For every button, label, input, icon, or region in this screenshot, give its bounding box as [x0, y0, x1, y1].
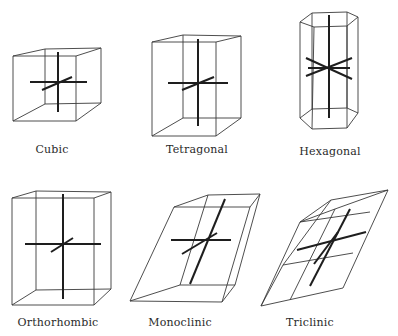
orthorhombic-hidden-edge-bottom	[12, 290, 36, 305]
monoclinic-hidden-edge-bottom	[130, 285, 180, 301]
monoclinic-crystal	[130, 194, 260, 302]
label-orthorhombic: Orthorhombic	[18, 316, 99, 329]
label-tetragonal: Tetragonal	[166, 143, 228, 156]
tetragonal-top-face	[152, 35, 241, 42]
orthorhombic-hidden-edges	[36, 191, 111, 290]
triclinic-top-face	[300, 190, 388, 222]
monoclinic-front-face	[130, 207, 250, 302]
cubic-crystal	[13, 48, 101, 121]
cubic-hidden-edges	[45, 49, 101, 104]
crystal-systems-diagram	[0, 0, 398, 336]
orthorhombic-crystal	[12, 191, 111, 305]
label-monoclinic: Monoclinic	[148, 316, 212, 329]
cubic-hidden-edge-bottom	[13, 104, 45, 121]
orthorhombic-right-face	[94, 192, 111, 305]
label-triclinic: Triclinic	[286, 316, 334, 329]
label-cubic: Cubic	[35, 143, 68, 156]
monoclinic-axis-a	[182, 233, 217, 254]
cubic-right-face	[76, 48, 101, 121]
monoclinic-top-face	[174, 194, 260, 207]
tetragonal-hidden-edges	[183, 35, 241, 118]
triclinic-hidden-edges	[261, 200, 331, 306]
monoclinic-right-face	[222, 194, 260, 302]
triclinic-hidden-top	[300, 212, 370, 222]
tetragonal-right-face	[216, 36, 241, 136]
triclinic-crystal	[261, 190, 388, 306]
label-hexagonal: Hexagonal	[299, 145, 361, 158]
hexagonal-crystal	[300, 12, 358, 129]
monoclinic-axis-c	[190, 199, 225, 284]
triclinic-front-right-edge	[290, 209, 335, 300]
triclinic-front-face	[261, 190, 388, 306]
tetragonal-crystal	[152, 35, 241, 136]
orthorhombic-top-face	[12, 191, 111, 198]
triclinic-axis-a	[314, 232, 338, 264]
tetragonal-hidden-edge-bottom	[152, 118, 183, 136]
